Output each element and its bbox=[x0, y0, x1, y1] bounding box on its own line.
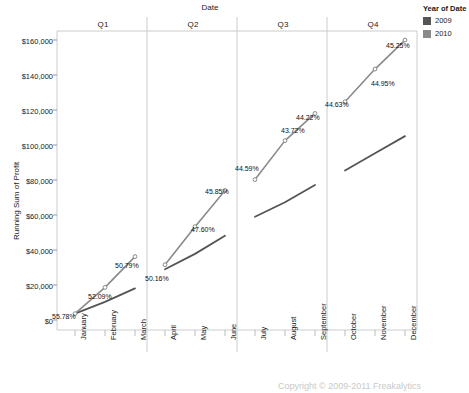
data-label-august: 43.72% bbox=[281, 127, 305, 134]
series-line bbox=[255, 113, 315, 179]
x-tick-label-february: February bbox=[109, 310, 118, 340]
data-label-may: 47.60% bbox=[191, 226, 215, 233]
data-label-november: 44.95% bbox=[371, 80, 395, 87]
x-tick-label-january: January bbox=[79, 313, 88, 340]
data-point-marker bbox=[373, 67, 377, 71]
footer-copyright: Copyright © 2009-2011 Freakalytics bbox=[278, 381, 421, 391]
data-label-july: 44.59% bbox=[235, 165, 259, 172]
data-label-june: 45.85% bbox=[205, 188, 229, 195]
panel-dividers bbox=[147, 17, 327, 352]
data-label-april: 50.16% bbox=[145, 275, 169, 282]
chart-container: Date Q1 Q2 Q3 Q4 Running Sum of Profit $… bbox=[0, 0, 469, 393]
data-label-december: 45.25% bbox=[386, 42, 410, 49]
legend-swatch-2010 bbox=[423, 30, 431, 38]
data-point-marker bbox=[253, 178, 257, 182]
x-tick-label-october: October bbox=[349, 313, 358, 340]
data-point-marker bbox=[283, 139, 287, 143]
data-label-october: 44.63% bbox=[325, 101, 349, 108]
legend-item-2009[interactable]: 2009 bbox=[423, 17, 452, 25]
legend-item-2010[interactable]: 2010 bbox=[423, 30, 452, 38]
series-2009 bbox=[75, 136, 405, 314]
y-tick-marks bbox=[53, 40, 57, 320]
data-point-marker bbox=[163, 263, 167, 267]
legend-label-2010: 2010 bbox=[435, 30, 452, 38]
x-tick-label-november: November bbox=[379, 305, 388, 340]
data-label-september: 44.22% bbox=[296, 114, 320, 121]
x-tick-label-may: May bbox=[199, 326, 208, 340]
x-tick-label-april: April bbox=[169, 325, 178, 340]
legend-title: Year of Date bbox=[423, 4, 466, 13]
series-line bbox=[255, 185, 315, 217]
legend-swatch-2009 bbox=[423, 17, 431, 25]
data-series-layer bbox=[73, 38, 407, 315]
data-point-marker bbox=[103, 286, 107, 290]
data-label-january: 55.78% bbox=[52, 313, 76, 320]
data-label-february: 52.09% bbox=[88, 293, 112, 300]
x-tick-label-august: August bbox=[289, 317, 298, 340]
x-tick-label-december: December bbox=[409, 305, 418, 340]
legend-label-2009: 2009 bbox=[435, 17, 452, 25]
data-label-march: 50.79% bbox=[115, 262, 139, 269]
x-tick-label-march: March bbox=[139, 319, 148, 340]
x-tick-label-june: June bbox=[229, 324, 238, 340]
data-point-marker bbox=[133, 255, 137, 259]
series-2010 bbox=[73, 38, 407, 315]
x-tick-label-july: July bbox=[259, 327, 268, 340]
series-line bbox=[345, 136, 405, 170]
x-tick-label-september: September bbox=[319, 303, 328, 340]
